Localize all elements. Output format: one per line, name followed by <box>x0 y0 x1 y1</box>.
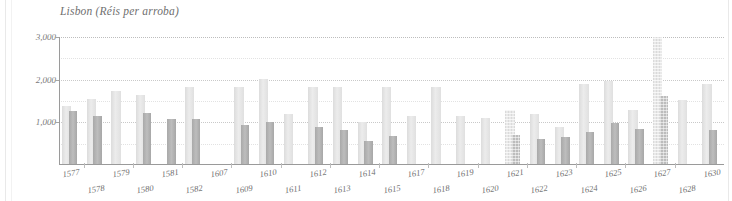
y-axis-tick-labels: 1,0002,0003,000 <box>0 37 56 165</box>
bar-group <box>478 37 503 165</box>
x-tick-mark <box>330 163 331 168</box>
x-tick-label-1622: 1622 <box>530 183 549 196</box>
x-tick-mark <box>379 163 380 168</box>
bar-low <box>340 130 348 165</box>
x-tick-label-1619: 1619 <box>456 167 475 180</box>
x-tick-label-1628: 1628 <box>678 183 697 196</box>
bar-low <box>709 130 717 165</box>
x-tick-label-1624: 1624 <box>579 183 598 196</box>
bar-group <box>305 37 330 165</box>
x-tick-label-1621: 1621 <box>505 167 524 180</box>
page-edge-rule-right <box>728 0 729 201</box>
bar-group <box>84 37 109 165</box>
x-tick-label-1625: 1625 <box>604 167 623 180</box>
bar-group <box>552 37 577 165</box>
x-tick-label-1581: 1581 <box>161 167 180 180</box>
x-tick-label-1620: 1620 <box>481 183 500 196</box>
bar-group <box>355 37 380 165</box>
bar-low <box>611 123 619 165</box>
bar-high <box>678 100 687 165</box>
plot-area <box>59 37 724 165</box>
bar-low <box>586 132 594 165</box>
x-tick-label-1577: 1577 <box>62 167 81 180</box>
bar-group <box>158 37 183 165</box>
x-tick-label-1607: 1607 <box>210 167 229 180</box>
bar-low <box>266 122 274 165</box>
bar-group <box>256 37 281 165</box>
bar-group <box>231 37 256 165</box>
x-tick-mark <box>576 163 577 168</box>
x-axis-tick-labels: 1577157815791580158115821607160916101611… <box>59 166 724 201</box>
bar-group <box>133 37 158 165</box>
x-tick-mark <box>428 163 429 168</box>
bar-group <box>281 37 306 165</box>
bar-low <box>512 135 520 165</box>
bar-group <box>699 37 724 165</box>
bar-group <box>379 37 404 165</box>
bar-group <box>453 37 478 165</box>
x-tick-label-1614: 1614 <box>358 167 377 180</box>
x-tick-mark <box>84 163 85 168</box>
bar-group <box>527 37 552 165</box>
x-tick-label-1578: 1578 <box>87 183 106 196</box>
bar-low <box>660 96 668 165</box>
x-tick-label-1626: 1626 <box>629 183 648 196</box>
bar-low <box>315 127 323 165</box>
bar-low <box>364 141 372 165</box>
x-axis-line <box>59 164 724 165</box>
bar-low <box>93 116 101 165</box>
bar-group <box>108 37 133 165</box>
bar-group <box>502 37 527 165</box>
chart-title: Lisbon (Réis per arroba) <box>60 5 179 17</box>
bar-group <box>207 37 232 165</box>
bar-group <box>330 37 355 165</box>
bar-low <box>69 111 77 165</box>
bar-low <box>192 119 200 165</box>
x-tick-label-1617: 1617 <box>407 167 426 180</box>
x-tick-mark <box>675 163 676 168</box>
bar-high <box>431 87 440 166</box>
bar-group <box>428 37 453 165</box>
bar-low <box>143 113 151 165</box>
x-tick-label-1609: 1609 <box>234 183 253 196</box>
y-tick-label-1000: 1,000 <box>4 117 56 127</box>
bar-high <box>481 118 490 165</box>
bar-group <box>650 37 675 165</box>
bar-high <box>456 116 465 165</box>
x-tick-label-1611: 1611 <box>284 183 302 195</box>
bar-group <box>625 37 650 165</box>
x-tick-label-1579: 1579 <box>111 167 130 180</box>
bar-low <box>635 129 643 165</box>
bar-group <box>675 37 700 165</box>
x-tick-label-1612: 1612 <box>308 167 327 180</box>
bar-low <box>167 119 175 165</box>
y-tick-label-3000: 3,000 <box>4 32 56 42</box>
x-tick-mark <box>281 163 282 168</box>
y-tick-label-2000: 2,000 <box>4 75 56 85</box>
x-tick-label-1580: 1580 <box>136 183 155 196</box>
bar-low <box>561 137 569 165</box>
bar-low <box>389 136 397 165</box>
bar-group <box>576 37 601 165</box>
x-tick-label-1615: 1615 <box>382 183 401 196</box>
x-tick-label-1618: 1618 <box>431 183 450 196</box>
x-tick-label-1613: 1613 <box>333 183 352 196</box>
x-tick-label-1582: 1582 <box>185 183 204 196</box>
lisbon-price-chart: Lisbon (Réis per arroba) 1,0002,0003,000… <box>0 0 732 201</box>
x-tick-label-1627: 1627 <box>653 167 672 180</box>
x-tick-mark <box>625 163 626 168</box>
x-tick-mark <box>478 163 479 168</box>
x-tick-mark <box>133 163 134 168</box>
bar-high <box>407 116 416 165</box>
bar-high <box>111 91 120 165</box>
bar-group <box>601 37 626 165</box>
bar-low <box>241 125 249 165</box>
bar-group <box>182 37 207 165</box>
x-tick-mark <box>231 163 232 168</box>
x-tick-label-1623: 1623 <box>555 167 574 180</box>
bar-series-container <box>59 37 724 165</box>
x-tick-mark <box>182 163 183 168</box>
x-tick-mark <box>527 163 528 168</box>
bar-group <box>404 37 429 165</box>
x-tick-label-1630: 1630 <box>702 167 721 180</box>
